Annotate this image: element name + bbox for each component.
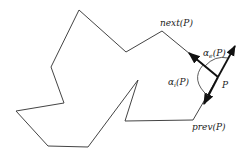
prev-edge-arrow (204, 77, 218, 104)
prev-label: prev(P) (192, 122, 226, 132)
point-label: P (221, 80, 229, 90)
alpha-i-label: αi(P) (168, 77, 190, 88)
next-label: next(P) (160, 18, 193, 28)
alpha-e-label: αe(P) (203, 48, 226, 59)
interior-angle-arc (198, 65, 208, 96)
polygon-diagram: next(P) prev(P) P αe(P) αi(P) (0, 0, 248, 153)
